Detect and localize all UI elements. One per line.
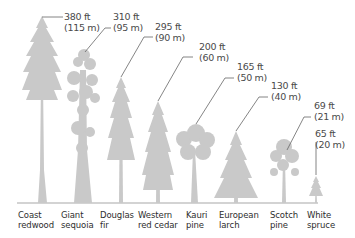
name-line2: pine: [270, 220, 298, 230]
height-m: (40 m): [271, 91, 301, 102]
european-larch-icon: [214, 131, 258, 203]
height-m: (50 m): [237, 72, 267, 83]
height-ft: 380 ft: [64, 11, 100, 22]
height-label-giant-sequoia: 310 ft (95 m): [113, 11, 143, 33]
kauri-pine-icon: [176, 124, 215, 203]
name-line2: spruce: [307, 220, 335, 230]
height-ft: 165 ft: [237, 61, 267, 72]
species-name-western-red-cedar: Western red cedar: [138, 210, 178, 230]
species-name-scotch-pine: Scotch pine: [270, 210, 298, 230]
name-line2: sequoia: [61, 220, 94, 230]
name-line1: Douglas: [100, 210, 134, 220]
height-m: (60 m): [199, 52, 229, 63]
species-name-douglas-fir: Douglas fir: [100, 210, 134, 230]
name-line2: larch: [219, 220, 259, 230]
height-label-western-red-cedar: 200 ft (60 m): [199, 41, 229, 63]
name-line1: Western: [138, 210, 178, 220]
height-m: (90 m): [155, 32, 185, 43]
height-label-douglas-fir: 295 ft (90 m): [155, 21, 185, 43]
species-name-kauri-pine: Kauri pine: [186, 210, 207, 230]
name-line2: red cedar: [138, 220, 178, 230]
height-label-european-larch: 130 ft (40 m): [271, 80, 301, 102]
height-label-white-spruce: 65 ft (20 m): [315, 128, 345, 150]
name-line1: European: [219, 210, 259, 220]
douglas-fir-icon: [107, 77, 135, 203]
coast-redwood-icon: [22, 16, 62, 203]
name-line1: Scotch: [270, 210, 298, 220]
name-line1: Coast: [18, 210, 54, 220]
name-line2: pine: [186, 220, 207, 230]
height-label-scotch-pine: 69 ft (21 m): [314, 100, 344, 122]
height-ft: 69 ft: [314, 100, 344, 111]
species-name-giant-sequoia: Giant sequoia: [61, 210, 94, 230]
species-name-white-spruce: White spruce: [307, 210, 335, 230]
height-ft: 295 ft: [155, 21, 185, 32]
height-m: (95 m): [113, 22, 143, 33]
height-m: (20 m): [315, 139, 345, 150]
name-line2: fir: [100, 220, 134, 230]
western-red-cedar-icon: [142, 101, 174, 203]
white-spruce-icon: [309, 176, 323, 203]
height-ft: 130 ft: [271, 80, 301, 91]
name-line1: White: [307, 210, 335, 220]
name-line1: Giant: [61, 210, 94, 220]
height-m: (21 m): [314, 111, 344, 122]
name-line2: redwood: [18, 220, 54, 230]
height-ft: 65 ft: [315, 128, 345, 139]
height-label-coast-redwood: 380 ft (115 m): [64, 11, 100, 33]
height-m: (115 m): [64, 22, 100, 33]
species-name-coast-redwood: Coast redwood: [18, 210, 54, 230]
height-ft: 310 ft: [113, 11, 143, 22]
species-name-european-larch: European larch: [219, 210, 259, 230]
scotch-pine-icon: [270, 139, 299, 203]
name-line1: Kauri: [186, 210, 207, 220]
giant-sequoia-icon: [67, 49, 100, 203]
height-label-kauri-pine: 165 ft (50 m): [237, 61, 267, 83]
height-ft: 200 ft: [199, 41, 229, 52]
